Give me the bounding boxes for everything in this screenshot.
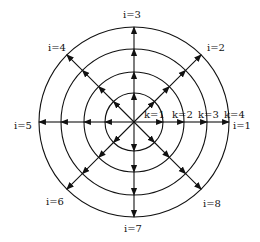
arrow-i8-k2: [155, 143, 170, 158]
label-i4: i=4: [48, 42, 66, 53]
label-i3: i=3: [123, 9, 141, 20]
arrow-i4-k2: [99, 87, 114, 102]
arrow-i6-k3: [82, 157, 98, 173]
label-i7: i=7: [124, 223, 142, 234]
arrow-i4-k4: [67, 55, 83, 71]
arrow-i8-k1: [134, 122, 155, 143]
arrow-i6-k1: [113, 122, 134, 143]
arrow-i2-k3: [169, 70, 185, 86]
polar-direction-diagram: k=1 k=2 k=3 k=4 i=1 i=2 i=3 i=4 i=5 i=6 …: [0, 0, 260, 242]
arrow-i4-k1: [113, 101, 134, 122]
label-i2: i=2: [207, 42, 225, 53]
direction-arrows: [39, 27, 229, 217]
label-i1: i=1: [233, 120, 251, 131]
arrow-i2-k2: [155, 87, 170, 102]
arrow-i6-k2: [99, 143, 114, 158]
arrow-i8-k3: [169, 157, 185, 173]
label-k4: k=4: [224, 109, 245, 120]
label-i8: i=8: [203, 198, 221, 209]
arrow-i2-k4: [186, 55, 202, 71]
arrow-i8-k4: [186, 174, 202, 190]
label-k3: k=3: [198, 109, 219, 120]
label-i5: i=5: [14, 120, 32, 131]
arrow-i4-k3: [82, 70, 98, 86]
label-k1: k=1: [144, 109, 165, 120]
label-i6: i=6: [46, 196, 64, 207]
arrow-i6-k4: [67, 174, 83, 190]
label-k2: k=2: [172, 109, 193, 120]
